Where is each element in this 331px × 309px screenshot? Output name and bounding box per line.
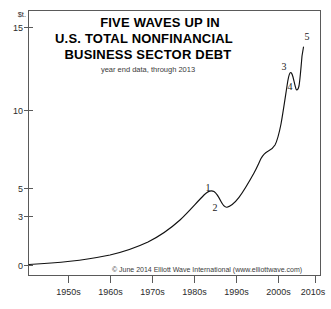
- y-tick-label: 15: [13, 23, 23, 33]
- x-tick-label: 1970s: [140, 287, 165, 297]
- y-axis-unit-label: $t.: [18, 10, 26, 19]
- y-axis-ticks: 15 10 5 3 0: [13, 23, 33, 271]
- wave-label-1: 1: [206, 182, 211, 193]
- copyright-credit: © June 2014 Elliott Wave International (…: [112, 266, 302, 274]
- y-tick-label: 5: [18, 184, 23, 194]
- chart-subtitle: year end data, through 2013: [101, 65, 195, 74]
- wave-label-4: 4: [288, 81, 293, 92]
- x-tick-label: 1990s: [224, 287, 249, 297]
- y-tick-label: 10: [13, 106, 23, 116]
- x-tick-label: 2000s: [266, 287, 291, 297]
- chart-title-line-1: FIVE WAVES UP IN: [100, 15, 220, 30]
- wave-label-5: 5: [305, 31, 310, 42]
- x-tick-label: 2010s: [301, 287, 326, 297]
- debt-series-line: [29, 47, 304, 265]
- y-tick-label: 0: [18, 261, 23, 271]
- x-tick-label: 1950s: [56, 287, 81, 297]
- wave-label-3: 3: [282, 61, 287, 72]
- chart-title-line-2: U.S. TOTAL NONFINANCIAL: [55, 31, 233, 46]
- chart-title-line-3: BUSINESS SECTOR DEBT: [64, 47, 231, 62]
- x-tick-label: 1960s: [98, 287, 123, 297]
- line-chart: $t. 15 10 5 3 0 1950s 1960s 1970s 1980s: [0, 0, 331, 309]
- y-tick-label: 3: [18, 212, 23, 222]
- chart-container: $t. 15 10 5 3 0 1950s 1960s 1970s 1980s: [0, 0, 331, 309]
- wave-label-2: 2: [213, 202, 218, 213]
- x-axis-ticks: 1950s 1960s 1970s 1980s 1990s 2000s 2010…: [56, 275, 326, 297]
- x-tick-label: 1980s: [182, 287, 207, 297]
